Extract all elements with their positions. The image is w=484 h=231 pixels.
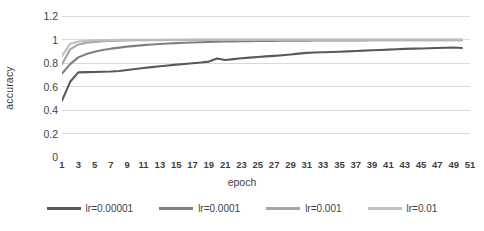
series-line: [62, 47, 462, 100]
y-axis-tick-label: 0.6: [14, 81, 58, 93]
y-axis-tick-label: 1.2: [14, 10, 58, 22]
y-axis-tick-label: 1: [14, 34, 58, 46]
x-axis-tick-label: 39: [367, 159, 378, 170]
y-axis-tick-label: 0: [14, 151, 58, 163]
x-axis-tick-labels: 1357911131517192123252729313335373941434…: [62, 159, 470, 175]
x-axis-tick-label: 29: [285, 159, 296, 170]
x-axis-tick-label: 3: [76, 159, 81, 170]
legend-line-swatch: [47, 207, 81, 210]
legend-line-swatch: [266, 207, 300, 210]
x-axis-tick-label: 47: [432, 159, 443, 170]
x-axis-tick-label: 33: [318, 159, 329, 170]
x-axis-tick-label: 27: [269, 159, 280, 170]
x-axis-tick-label: 35: [334, 159, 345, 170]
legend-item[interactable]: lr=0.01: [368, 203, 438, 214]
x-axis-tick-label: 9: [125, 159, 130, 170]
series-line: [62, 40, 462, 64]
x-axis-tick-label: 51: [465, 159, 476, 170]
y-axis-tick-label: 0.8: [14, 57, 58, 69]
x-axis-tick-label: 17: [187, 159, 198, 170]
x-axis-tick-label: 49: [448, 159, 459, 170]
series-lines: [62, 40, 462, 101]
x-axis-tick-label: 31: [302, 159, 313, 170]
x-axis-tick-label: 43: [399, 159, 410, 170]
accuracy-vs-epoch-line-chart: accuracy 00.20.40.60.811.2 1357911131517…: [0, 0, 484, 231]
x-axis-tick-label: 11: [139, 159, 149, 170]
legend-line-swatch: [159, 207, 193, 210]
x-axis-tick-label: 25: [253, 159, 264, 170]
legend-item[interactable]: lr=0.001: [266, 203, 341, 214]
legend-line-swatch: [368, 207, 402, 210]
x-axis-tick-label: 37: [350, 159, 361, 170]
plot-svg: [62, 16, 470, 157]
x-axis-tick-label: 7: [108, 159, 113, 170]
legend-label: lr=0.00001: [86, 203, 134, 214]
legend-label: lr=0.01: [407, 203, 438, 214]
x-axis-tick-label: 45: [416, 159, 427, 170]
y-axis-tick-label: 0.2: [14, 128, 58, 140]
legend-item[interactable]: lr=0.0001: [159, 203, 240, 214]
legend-label: lr=0.001: [305, 203, 341, 214]
x-axis-tick-label: 19: [204, 159, 215, 170]
x-axis-tick-label: 5: [92, 159, 97, 170]
legend-item[interactable]: lr=0.00001: [47, 203, 134, 214]
legend-label: lr=0.0001: [198, 203, 240, 214]
y-axis-tick-label: 0.4: [14, 104, 58, 116]
y-axis-tick-labels: 00.20.40.60.811.2: [12, 0, 58, 231]
x-axis-tick-label: 41: [383, 159, 394, 170]
chart-legend: lr=0.00001lr=0.0001lr=0.001lr=0.01: [0, 203, 484, 214]
x-axis-title: epoch: [0, 176, 484, 188]
x-axis-tick-label: 23: [236, 159, 247, 170]
x-axis-tick-label: 21: [220, 159, 231, 170]
gridlines: [62, 16, 470, 157]
plot-area: [62, 16, 470, 157]
x-axis-tick-label: 13: [155, 159, 166, 170]
x-axis-tick-label: 15: [171, 159, 182, 170]
x-axis-tick-label: 1: [59, 159, 64, 170]
